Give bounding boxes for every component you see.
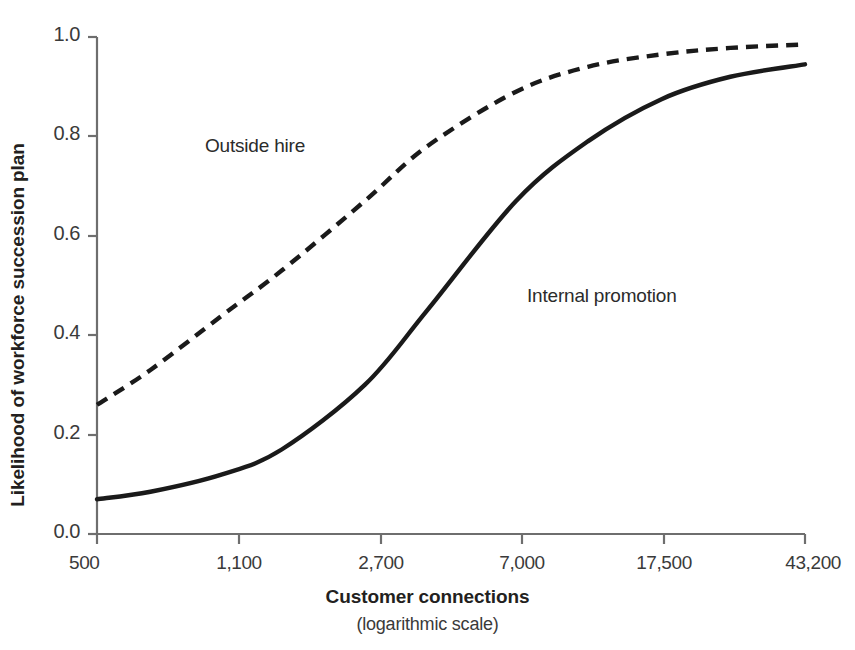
y-tick-label: 0.8 bbox=[26, 122, 80, 145]
y-tick-label: 0.0 bbox=[26, 520, 80, 543]
x-axis-subtitle: (logarithmic scale) bbox=[0, 614, 855, 635]
x-tick-label: 500 bbox=[69, 552, 179, 574]
x-tick-label: 2,700 bbox=[326, 552, 436, 574]
x-tick-label: 43,200 bbox=[731, 552, 841, 574]
x-axis-title: Customer connections bbox=[0, 586, 855, 608]
series-paths bbox=[97, 44, 805, 499]
x-tick-label: 17,500 bbox=[609, 552, 719, 574]
series-annotation-internal-promotion: Internal promotion bbox=[527, 285, 677, 307]
x-axis-ticks bbox=[97, 534, 805, 544]
x-tick-label: 7,000 bbox=[467, 552, 577, 574]
series-annotation-outside-hire: Outside hire bbox=[205, 135, 305, 157]
axis-lines bbox=[97, 37, 805, 534]
y-tick-label: 0.2 bbox=[26, 421, 80, 444]
y-tick-label: 0.4 bbox=[26, 321, 80, 344]
y-axis-ticks bbox=[88, 37, 97, 534]
series-line-outside-hire bbox=[97, 44, 805, 404]
chart-figure: Likelihood of workforce succession plan … bbox=[0, 0, 855, 650]
x-tick-label: 1,100 bbox=[184, 552, 294, 574]
y-tick-label: 0.6 bbox=[26, 222, 80, 245]
y-tick-label: 1.0 bbox=[26, 23, 80, 46]
